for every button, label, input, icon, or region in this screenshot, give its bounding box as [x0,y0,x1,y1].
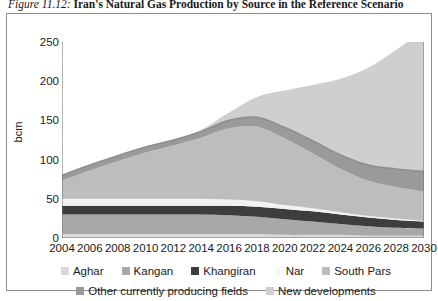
y-tick-250: 250 [25,37,59,47]
legend-label: New developments [278,285,376,298]
plot-area [62,42,424,238]
y-tick-50: 50 [25,194,59,204]
legend-item-khangiran[interactable]: Khangiran [191,265,255,278]
legend-item-new-developments[interactable]: New developments [266,285,376,298]
legend-swatch-icon [122,267,130,275]
legend-swatch-icon [76,287,84,295]
legend-item-south-pars[interactable]: South Pars [322,265,391,278]
x-tick-2030: 2030 [404,242,438,255]
chart-legend: AgharKanganKhangiranNarSouth Pars Other … [13,261,438,301]
legend-label: South Pars [334,265,391,278]
figure-title: Figure 11.12: Iran's Natural Gas Product… [8,0,438,13]
legend-swatch-icon [322,267,330,275]
legend-label: Aghar [73,265,104,278]
legend-swatch-icon [61,267,69,275]
legend-swatch-icon [266,287,274,295]
legend-label: Nar [286,265,305,278]
y-tick-200: 200 [25,76,59,86]
legend-swatch-icon [274,267,282,275]
figure-number: Figure 11.12: [8,0,71,10]
y-axis-tick-labels: 250200150100500 [19,42,59,238]
legend-swatch-icon [191,267,199,275]
legend-label: Other currently producing fields [88,285,248,298]
figure-title-text: Iran's Natural Gas Production by Source … [73,0,403,10]
legend-row-primary: AgharKanganKhangiranNarSouth Pars [13,261,438,281]
chart-frame: bcm 250200150100500 20042006200820102012… [6,13,432,291]
y-tick-150: 150 [25,115,59,125]
legend-label: Kangan [134,265,174,278]
legend-item-nar[interactable]: Nar [274,265,305,278]
legend-item-other-currently-producing-fields[interactable]: Other currently producing fields [76,285,248,298]
legend-row-secondary: Other currently producing fieldsNew deve… [13,281,438,301]
legend-label: Khangiran [203,265,255,278]
x-axis-tick-labels: 2004200620082010201220142016201820202022… [62,242,424,256]
legend-item-aghar[interactable]: Aghar [61,265,104,278]
legend-item-kangan[interactable]: Kangan [122,265,174,278]
stacked-area-chart [62,42,424,238]
y-tick-100: 100 [25,155,59,165]
